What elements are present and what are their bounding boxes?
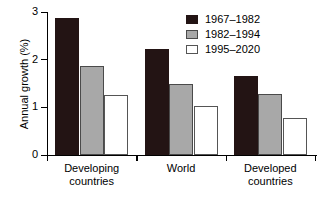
legend-item-1: 1982–1994 [186, 27, 260, 41]
y-tick-label: 2 [6, 54, 38, 66]
x-tick-mark [47, 156, 48, 161]
legend-item-0: 1967–1982 [186, 12, 260, 26]
group-label-0: Developingcountries [47, 162, 136, 188]
bar-1-1 [169, 84, 193, 155]
x-tick-mark [315, 156, 316, 161]
group-label-line1: Developed [226, 162, 315, 175]
y-tick-label-text: 1 [8, 101, 38, 112]
legend: 1967–19821982–19941995–2020 [186, 12, 260, 57]
group-label-1: World [136, 162, 225, 175]
bar-2-2 [283, 118, 307, 155]
bar-0-1 [80, 66, 104, 155]
group-label-line1: World [136, 162, 225, 175]
y-tick-label-text: 0 [8, 149, 38, 160]
group-label-line1: Developing [47, 162, 136, 175]
group-label-line2: countries [47, 175, 136, 188]
plot-area [47, 12, 315, 155]
y-axis-title: Annual growth (%) [18, 9, 30, 159]
y-tick-label: 3 [6, 6, 38, 18]
legend-label: 1967–1982 [205, 13, 260, 25]
bar-2-1 [258, 94, 282, 155]
bar-0-2 [104, 95, 128, 155]
y-tick-label: 1 [6, 101, 38, 113]
legend-item-2: 1995–2020 [186, 42, 260, 56]
bar-2-0 [234, 76, 258, 155]
legend-swatch-icon [186, 15, 198, 24]
group-label-2: Developedcountries [226, 162, 315, 188]
y-tick-label-text: 2 [8, 54, 38, 65]
bar-1-2 [194, 106, 218, 155]
x-axis-line [47, 155, 317, 156]
bar-1-0 [145, 49, 169, 155]
y-tick-label-text: 3 [8, 6, 38, 17]
x-tick-mark [226, 156, 227, 161]
legend-label: 1982–1994 [205, 28, 260, 40]
legend-label: 1995–2020 [205, 43, 260, 55]
legend-swatch-icon [186, 30, 198, 39]
bar-0-0 [55, 18, 79, 155]
x-tick-mark [136, 156, 137, 161]
bar-chart: Annual growth (%) 0123 Developingcountri… [0, 0, 325, 199]
y-tick-label: 0 [6, 149, 38, 161]
legend-swatch-icon [186, 45, 198, 54]
group-label-line2: countries [226, 175, 315, 188]
